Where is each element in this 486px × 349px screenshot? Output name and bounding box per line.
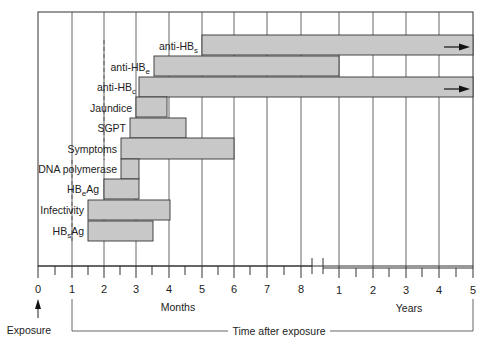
exposure-arrow-icon [35, 299, 41, 318]
svg-text:4: 4 [436, 284, 442, 296]
svg-text:4: 4 [166, 283, 172, 295]
label-infectivity: Infectivity [40, 204, 85, 216]
years-label: Years [396, 302, 422, 314]
bar-hbeag [104, 179, 139, 199]
label-sgpt: SGPT [97, 122, 126, 134]
hepatitis-b-timeline-diagram: anti-HBs anti-HBe anti-HBc Jaundice SGPT… [0, 0, 486, 349]
label-dna-polymerase: DNA polymerase [38, 163, 117, 175]
time-after-exposure-label: Time after exposure [233, 325, 326, 337]
svg-text:1: 1 [336, 284, 342, 296]
label-jaundice: Jaundice [90, 102, 132, 114]
svg-text:3: 3 [403, 284, 409, 296]
svg-text:1: 1 [69, 283, 75, 295]
svg-text:7: 7 [264, 283, 270, 295]
svg-text:2: 2 [101, 283, 107, 295]
bar-sgpt [130, 118, 186, 138]
svg-text:6: 6 [231, 283, 237, 295]
bar-anti-hbs [202, 35, 473, 55]
bar-anti-hbe [154, 56, 339, 76]
svg-text:5: 5 [199, 283, 205, 295]
label-symptoms: Symptoms [67, 143, 117, 155]
exposure-label: Exposure [7, 324, 52, 336]
svg-text:2: 2 [370, 284, 376, 296]
svg-text:8: 8 [298, 283, 304, 295]
svg-text:0: 0 [35, 283, 41, 295]
bar-infectivity [88, 200, 170, 220]
bar-jaundice [136, 97, 167, 117]
bar-dna-polymerase [121, 159, 139, 179]
bar-symptoms [121, 138, 234, 159]
year-tick-labels: 1 2 3 4 5 [336, 284, 476, 296]
months-label: Months [161, 301, 195, 313]
svg-text:3: 3 [133, 283, 139, 295]
month-tick-labels: 0 1 2 3 4 5 6 7 8 [35, 283, 304, 295]
bar-anti-hbc [139, 77, 473, 97]
bar-hbsag [88, 221, 153, 241]
svg-text:5: 5 [470, 284, 476, 296]
